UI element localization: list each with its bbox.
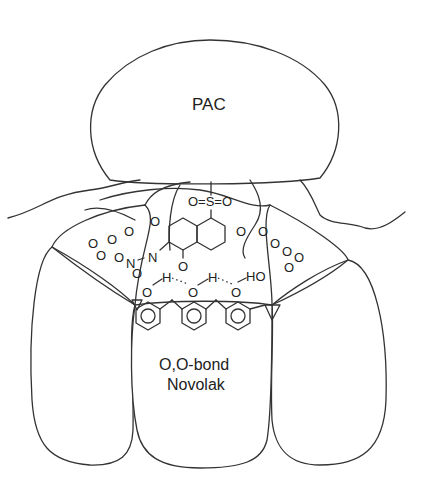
ether-o: O: [270, 236, 280, 251]
polymer-strand: [100, 188, 270, 205]
ether-o: O: [284, 260, 294, 275]
pac-label: PAC: [192, 95, 226, 114]
novolak-label-line1: O,O-bond: [159, 356, 229, 373]
polymer-strand: [169, 185, 180, 250]
bond: [238, 278, 246, 282]
naphtho-ring-left: [169, 218, 197, 250]
ether-o: O: [282, 244, 292, 259]
sulfonyl-label: O=S=O: [188, 194, 232, 209]
ether-o: O: [114, 250, 124, 265]
bond: [198, 279, 208, 285]
polymer-strand: [8, 180, 140, 218]
hydrogen-bond: [172, 278, 188, 284]
ether-o: O: [150, 214, 160, 229]
atom-h: H: [208, 270, 217, 285]
phenol-o: O: [142, 285, 152, 300]
polymer-strand: [145, 182, 190, 205]
ether-o: O: [236, 224, 246, 239]
bond: [153, 279, 162, 285]
pac-novolak-diagram: O=S=O O N N O O O O O O O O O O O O O H …: [0, 0, 421, 492]
novolak-left-blob: [31, 247, 135, 465]
polymer-strand: [300, 180, 405, 229]
naphtho-ring-right: [197, 218, 225, 250]
novolak-label-line2: Novolak: [167, 376, 226, 393]
polymer-strand: [85, 208, 135, 220]
phenol-o: O: [231, 285, 241, 300]
hydrogen-bond: [218, 278, 232, 284]
ether-o: O: [96, 248, 106, 263]
ether-o: O: [258, 224, 268, 239]
bond: [160, 242, 169, 250]
ether-o: O: [132, 266, 142, 281]
atom-ho: HO: [246, 269, 266, 284]
novolak-right-blob: [271, 260, 386, 465]
atom-h: H: [162, 270, 171, 285]
ether-o: O: [107, 232, 117, 247]
ether-o: O: [294, 250, 304, 265]
phenol-o: O: [188, 285, 198, 300]
atom-n: N: [148, 250, 157, 265]
ether-o: O: [124, 224, 134, 239]
polymer-strand: [243, 180, 260, 258]
atom-o: O: [178, 259, 188, 274]
